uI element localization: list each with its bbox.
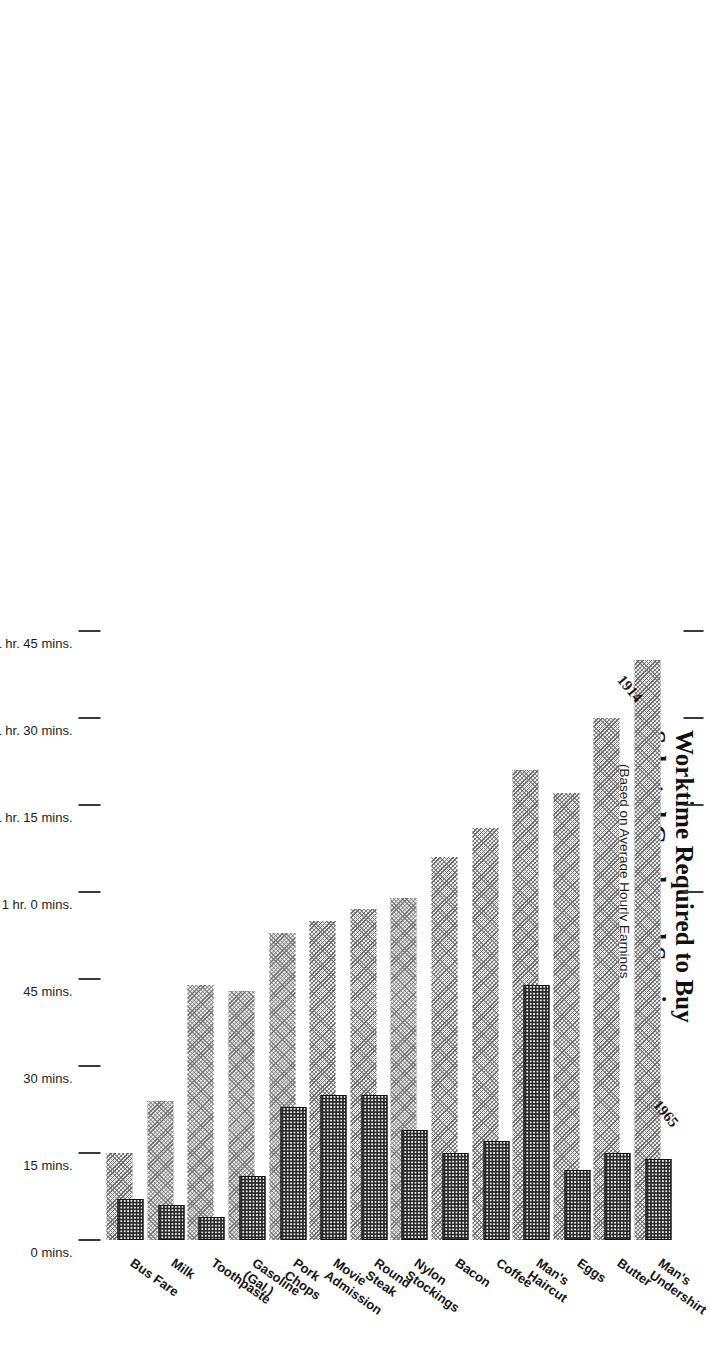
axis-tick-label: 1 hr. 45 mins. <box>0 636 72 651</box>
axis-tick <box>78 630 100 632</box>
bar-1965 <box>604 1153 630 1240</box>
axis-tick-label: 15 mins. <box>23 1158 72 1173</box>
axis-tick <box>78 1152 100 1154</box>
bar-1965 <box>198 1217 224 1240</box>
axis-tick <box>78 804 100 806</box>
chart-figure: Worktime Required to Buy Selected Goods … <box>0 0 711 1368</box>
bar-1965 <box>523 985 549 1240</box>
axis-tick-label: 1 hr. 15 mins. <box>0 810 72 825</box>
bar-1965 <box>320 1095 346 1240</box>
bar-1965 <box>239 1176 265 1240</box>
bar-1965 <box>280 1107 306 1240</box>
bar-1965 <box>483 1141 509 1240</box>
axis-tick-label: 30 mins. <box>23 1071 72 1086</box>
category-label: Milk <box>167 1256 196 1282</box>
bar-1914 <box>634 660 660 1240</box>
category-label: Coffee <box>492 1256 533 1291</box>
bar-1965 <box>645 1159 671 1240</box>
axis-tick-label: 0 mins. <box>30 1245 72 1260</box>
bar-1965 <box>158 1205 184 1240</box>
category-label: Man'sUndershirt <box>646 1256 711 1318</box>
axis-tick <box>78 1065 100 1067</box>
axis-tick-top <box>683 804 703 806</box>
bar-1965 <box>401 1130 427 1240</box>
axis-tick-label: 45 mins. <box>23 984 72 999</box>
bar-1965 <box>361 1095 387 1240</box>
axis-tick <box>78 891 100 893</box>
category-label: Butter <box>614 1256 654 1290</box>
axis-baseline <box>99 631 101 1240</box>
category-label: Eggs <box>573 1256 607 1286</box>
plot-area: 0 mins.15 mins.30 mins.45 mins.1 hr. 0 m… <box>0 0 711 1368</box>
axis-tick-top <box>683 891 703 893</box>
bar-1965 <box>564 1170 590 1240</box>
bar-1914 <box>187 985 213 1240</box>
bar-1965 <box>117 1199 143 1240</box>
axis-tick-top <box>683 717 703 719</box>
bar-1965 <box>442 1153 468 1240</box>
axis-tick <box>78 1239 100 1241</box>
axis-tick-label: 1 hr. 30 mins. <box>0 723 72 738</box>
axis-tick-top <box>683 630 703 632</box>
axis-tick-label: 1 hr. 0 mins. <box>1 897 72 912</box>
axis-tick <box>78 978 100 980</box>
axis-tick <box>78 717 100 719</box>
